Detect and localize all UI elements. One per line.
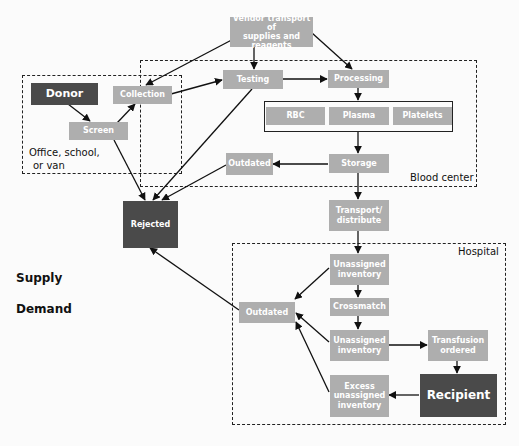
crossmatch-node: Crossmatch xyxy=(330,298,389,316)
transport-distribute-node: Transport/ distribute xyxy=(329,200,389,231)
plasma-label: Plasma xyxy=(343,111,376,120)
recipient-label: Recipient xyxy=(427,389,491,403)
plasma-node: Plasma xyxy=(329,107,389,125)
donor-node: Donor xyxy=(31,83,98,105)
unassigned-inventory-1-node: Unassigned inventory xyxy=(330,254,389,285)
recipient-node: Recipient xyxy=(420,374,497,417)
screen-node: Screen xyxy=(69,122,128,140)
storage-label: Storage xyxy=(341,159,377,168)
outdated-h-label: Outdated xyxy=(246,308,288,317)
screen-label: Screen xyxy=(83,126,114,135)
rejected-label: Rejected xyxy=(131,220,170,229)
rejected-node: Rejected xyxy=(123,201,178,248)
outdated-blood-center-node: Outdated xyxy=(226,153,273,175)
testing-node: Testing xyxy=(223,70,283,89)
platelets-label: Platelets xyxy=(402,111,442,120)
outdated-hospital-node: Outdated xyxy=(239,302,295,323)
unassigned2-line2: inventory xyxy=(338,346,381,355)
excess-line1: Excess xyxy=(344,382,374,391)
excess-line2: unassigned xyxy=(334,391,386,400)
unassigned1-line1: Unassigned xyxy=(333,260,385,269)
processing-label: Processing xyxy=(334,74,383,83)
excess-line3: inventory xyxy=(338,401,381,410)
vendor-line2: supplies and reagents xyxy=(232,32,311,50)
collection-node: Collection xyxy=(113,86,172,104)
excess-unassigned-inventory-node: Excess unassigned inventory xyxy=(330,375,389,417)
vendor-line1: Vendor transport of xyxy=(232,14,311,32)
transfusion-line1: Transfusion xyxy=(432,336,484,345)
transport-line1: Transport/ xyxy=(336,206,382,215)
unassigned-inventory-2-node: Unassigned inventory xyxy=(330,330,389,361)
collection-label: Collection xyxy=(120,90,165,99)
rbc-label: RBC xyxy=(286,111,304,120)
transfusion-ordered-node: Transfusion ordered xyxy=(428,330,488,361)
transfusion-line2: ordered xyxy=(440,346,476,355)
outdated-bc-label: Outdated xyxy=(228,159,270,168)
testing-label: Testing xyxy=(237,75,270,84)
processing-node: Processing xyxy=(328,70,389,88)
platelets-node: Platelets xyxy=(393,107,452,125)
storage-node: Storage xyxy=(329,154,389,173)
transport-line2: distribute xyxy=(337,216,381,225)
unassigned1-line2: inventory xyxy=(338,270,381,279)
unassigned2-line1: Unassigned xyxy=(333,336,385,345)
rbc-node: RBC xyxy=(266,107,325,125)
vendor-transport-node: Vendor transport of supplies and reagent… xyxy=(230,17,313,47)
crossmatch-label: Crossmatch xyxy=(333,302,386,311)
donor-label: Donor xyxy=(46,88,84,101)
